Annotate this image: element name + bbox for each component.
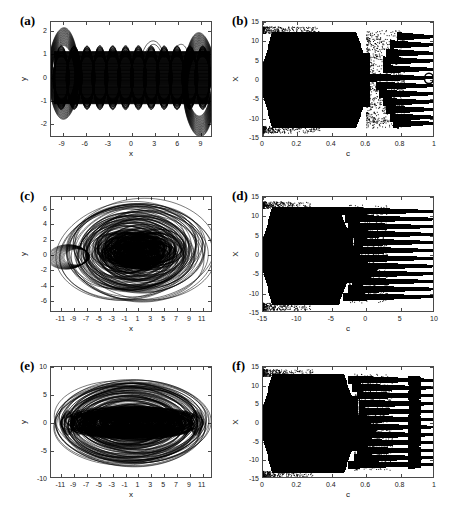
y-ticklabel-e: -5 (30, 447, 47, 454)
y-ticklabel-b: 5 (242, 56, 259, 63)
y-ticklabel-f: -5 (242, 437, 259, 444)
x-ticklabel-e: -1 (121, 481, 127, 488)
x-ticklabel-a: -3 (105, 140, 111, 147)
y-ticklabel-b: -5 (242, 95, 259, 102)
y-ticklabel-f: 10 (242, 381, 259, 388)
x-ticklabel-f: 0.2 (292, 481, 302, 488)
x-ticklabel-a: 9 (198, 140, 202, 147)
y-axis-label-b: X (232, 67, 240, 91)
x-ticklabel-c: 5 (161, 315, 165, 322)
x-ticklabel-f: 0.6 (360, 481, 370, 488)
y-ticklabel-c: 6 (30, 205, 47, 212)
y-ticklabel-c: -4 (30, 281, 47, 288)
y-ticklabel-f: 0 (242, 419, 259, 426)
plot-render-b (263, 22, 434, 137)
y-ticklabel-c: -6 (30, 296, 47, 303)
x-ticklabel-e: -11 (55, 481, 65, 488)
x-ticklabel-c: 1 (135, 315, 139, 322)
x-ticklabel-f: 0.4 (326, 481, 336, 488)
y-ticklabel-d: -15 (242, 309, 259, 316)
y-ticklabel-f: -10 (242, 456, 259, 463)
x-ticklabel-c: 7 (174, 315, 178, 322)
x-ticklabel-b: 0.2 (292, 140, 302, 147)
x-ticklabel-c: 11 (198, 315, 205, 322)
x-axis-label-e: x (129, 491, 133, 499)
plot-render-a (51, 22, 212, 137)
x-ticklabel-b: 0 (260, 140, 264, 147)
x-ticklabel-d: -5 (328, 315, 334, 322)
y-ticklabel-d: 5 (242, 231, 259, 238)
x-ticklabel-a: 0 (129, 140, 133, 147)
y-ticklabel-d: 10 (242, 212, 259, 219)
y-ticklabel-a: 1 (30, 50, 47, 57)
y-ticklabel-a: 2 (30, 27, 47, 34)
plot-render-c (51, 197, 212, 312)
y-ticklabel-f: 15 (242, 363, 259, 370)
y-axis-label-f: X (232, 410, 240, 434)
x-ticklabel-a: -9 (58, 140, 64, 147)
x-ticklabel-a: 3 (152, 140, 156, 147)
x-ticklabel-d: 0 (363, 315, 367, 322)
plot-area-b (262, 21, 434, 137)
y-ticklabel-e: 5 (30, 391, 47, 398)
x-ticklabel-d: 10 (430, 315, 438, 322)
y-ticklabel-b: 0 (242, 76, 259, 83)
y-ticklabel-c: 4 (30, 220, 47, 227)
x-ticklabel-f: 1 (432, 481, 436, 488)
y-ticklabel-b: -10 (242, 114, 259, 121)
x-ticklabel-c: -11 (55, 315, 65, 322)
x-ticklabel-f: 0 (260, 481, 264, 488)
plot-render-f (263, 367, 434, 478)
x-ticklabel-c: -9 (70, 315, 76, 322)
y-ticklabel-d: -5 (242, 270, 259, 277)
x-ticklabel-e: 1 (135, 481, 139, 488)
x-ticklabel-b: 1 (432, 140, 436, 147)
y-ticklabel-e: 10 (30, 363, 47, 370)
panel-label-c: (c) (20, 189, 34, 202)
x-ticklabel-e: 5 (161, 481, 165, 488)
plot-area-c (50, 196, 212, 312)
x-ticklabel-c: -5 (96, 315, 102, 322)
plot-area-a (50, 21, 212, 137)
y-ticklabel-c: 2 (30, 235, 47, 242)
figure-canvas: (a)-9-6-30369-2-1012xy(b)00.20.40.60.81-… (0, 0, 458, 517)
plot-render-e (51, 367, 212, 478)
y-ticklabel-e: -10 (30, 475, 47, 482)
x-ticklabel-f: 0.8 (395, 481, 405, 488)
plot-area-d (262, 196, 434, 312)
y-ticklabel-a: 0 (30, 73, 47, 80)
x-ticklabel-e: -7 (83, 481, 89, 488)
x-ticklabel-e: -9 (70, 481, 76, 488)
x-ticklabel-c: -3 (109, 315, 115, 322)
plot-area-e (50, 366, 212, 478)
y-ticklabel-b: 10 (242, 37, 259, 44)
y-ticklabel-f: -15 (242, 475, 259, 482)
x-ticklabel-c: -7 (83, 315, 89, 322)
x-ticklabel-a: -6 (82, 140, 88, 147)
y-ticklabel-b: -15 (242, 134, 259, 141)
plot-render-d (263, 197, 434, 312)
x-ticklabel-e: -3 (109, 481, 115, 488)
y-axis-label-a: y (20, 67, 28, 91)
y-ticklabel-d: 0 (242, 251, 259, 258)
y-axis-label-c: y (20, 242, 28, 266)
x-ticklabel-b: 0.6 (360, 140, 370, 147)
x-ticklabel-a: 6 (175, 140, 179, 147)
y-ticklabel-d: -10 (242, 289, 259, 296)
x-ticklabel-c: -1 (121, 315, 127, 322)
x-ticklabel-c: 3 (148, 315, 152, 322)
x-ticklabel-e: 7 (174, 481, 178, 488)
x-ticklabel-d: 5 (398, 315, 402, 322)
x-ticklabel-b: 0.4 (326, 140, 336, 147)
x-ticklabel-d: -10 (291, 315, 301, 322)
plot-area-f (262, 366, 434, 478)
x-axis-label-d: c (346, 325, 350, 333)
y-axis-label-e: y (20, 410, 28, 434)
y-ticklabel-a: -1 (30, 96, 47, 103)
y-ticklabel-b: 15 (242, 18, 259, 25)
y-ticklabel-c: 0 (30, 251, 47, 258)
y-ticklabel-d: 15 (242, 193, 259, 200)
x-axis-label-c: x (129, 325, 133, 333)
y-ticklabel-f: 5 (242, 400, 259, 407)
y-ticklabel-c: -2 (30, 266, 47, 273)
